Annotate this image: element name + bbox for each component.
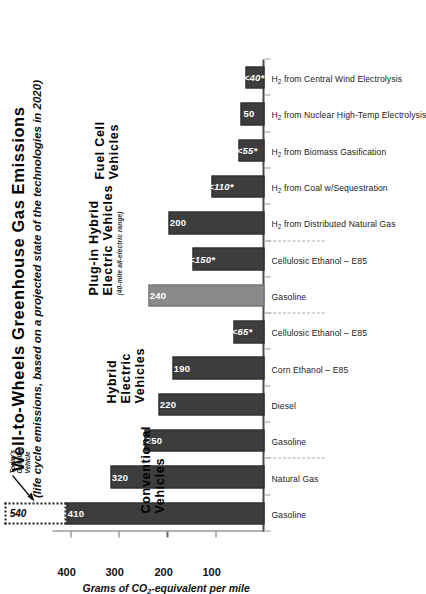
category-tick bbox=[264, 203, 270, 204]
bar-4: 220 bbox=[52, 393, 264, 416]
category-label: Natural Gas bbox=[271, 473, 318, 483]
y-tick-label: 200 bbox=[154, 565, 172, 577]
category-label: Corn Ethanol – E85 bbox=[271, 364, 348, 374]
bar-value-label: 410 bbox=[68, 507, 84, 518]
bar-12: 50 bbox=[52, 102, 264, 125]
bar-10: <110* bbox=[52, 175, 264, 198]
bar-5: 190 bbox=[52, 356, 264, 379]
category-tick bbox=[264, 494, 270, 495]
bar-rect: 200 bbox=[168, 211, 264, 234]
group-divider bbox=[268, 457, 324, 458]
bar-13: <40* bbox=[52, 66, 264, 89]
category-label: Gasoline bbox=[271, 509, 306, 519]
bar-value-label: 190 bbox=[174, 362, 190, 373]
category-tick bbox=[264, 385, 270, 386]
bar-value-label: 200 bbox=[169, 217, 185, 228]
bar-value-label: <150* bbox=[188, 253, 214, 264]
y-tick bbox=[118, 531, 119, 537]
bar-rect: 50 bbox=[240, 102, 264, 125]
y-tick bbox=[215, 531, 216, 537]
group-divider bbox=[268, 240, 324, 241]
category-label: H2 from Biomass Gasification bbox=[271, 146, 386, 157]
category-tick bbox=[264, 348, 270, 349]
value-axis-title: Grams of CO2-equivalent per mile bbox=[82, 581, 249, 594]
callout-arrow-icon bbox=[6, 453, 66, 523]
category-label: Gasoline bbox=[271, 436, 306, 446]
category-tick bbox=[264, 530, 270, 531]
bar-value-label: 220 bbox=[159, 398, 175, 409]
bar-rect: <40* bbox=[245, 66, 264, 89]
bar-value-label: <40* bbox=[243, 72, 264, 83]
y-tick bbox=[70, 531, 71, 537]
y-tick-label: 300 bbox=[105, 565, 123, 577]
bar-rect: <110* bbox=[211, 175, 264, 198]
bar-rect: <65* bbox=[233, 320, 264, 343]
category-tick bbox=[264, 421, 270, 422]
bar-value-label: <55* bbox=[236, 144, 257, 155]
group-heading: Plug-in HybridElectric Vehicles(40-mile … bbox=[86, 184, 122, 295]
y-tick-label: 100 bbox=[202, 565, 220, 577]
bar-11: <55* bbox=[52, 139, 264, 162]
y-tick bbox=[166, 531, 167, 537]
bar-value-label: <65* bbox=[231, 326, 252, 337]
category-tick bbox=[264, 167, 270, 168]
category-tick bbox=[264, 276, 270, 277]
bar-rect: 220 bbox=[158, 393, 264, 416]
group-heading: ConventionalVehicles bbox=[138, 425, 166, 513]
bar-7: 240 bbox=[52, 284, 264, 307]
plot-area: 410540320250220190<65*240<150*200<110*<5… bbox=[52, 59, 264, 531]
category-label: H2 from Central Wind Electrolysis bbox=[271, 73, 402, 84]
category-tick bbox=[264, 94, 270, 95]
bar-8: <150* bbox=[52, 247, 264, 270]
category-label: Cellulosic Ethanol – E85 bbox=[271, 327, 367, 337]
category-label: H2 from Nuclear High-Temp Electrolysis bbox=[271, 109, 426, 120]
group-heading: Fuel CellVehicles bbox=[92, 121, 120, 179]
category-label: Gasoline bbox=[271, 291, 306, 301]
bar-rect: <150* bbox=[192, 247, 264, 270]
bar-rect: 320 bbox=[110, 465, 264, 488]
bar-rect: 190 bbox=[172, 356, 264, 379]
bar-value-label: 320 bbox=[111, 471, 127, 482]
bar-value-label: <110* bbox=[208, 181, 233, 192]
group-heading: HybridElectricVehicles bbox=[104, 347, 146, 403]
category-label: Diesel bbox=[271, 400, 295, 410]
bar-9: 200 bbox=[52, 211, 264, 234]
bar-value-label: 240 bbox=[150, 290, 166, 301]
category-tick bbox=[264, 58, 270, 59]
bar-6: <65* bbox=[52, 320, 264, 343]
bar-rect: 240 bbox=[148, 284, 264, 307]
category-label: Cellulosic Ethanol – E85 bbox=[271, 255, 367, 265]
category-label: H2 from Coal w/Sequestration bbox=[271, 182, 387, 193]
bar-rect: <55* bbox=[238, 139, 265, 162]
bar-value-label: 50 bbox=[243, 108, 254, 119]
y-tick-label: 400 bbox=[57, 565, 75, 577]
category-label: H2 from Distributed Natural Gas bbox=[271, 218, 395, 229]
group-divider bbox=[268, 312, 324, 313]
value-axis-line bbox=[52, 530, 264, 531]
category-tick bbox=[264, 131, 270, 132]
